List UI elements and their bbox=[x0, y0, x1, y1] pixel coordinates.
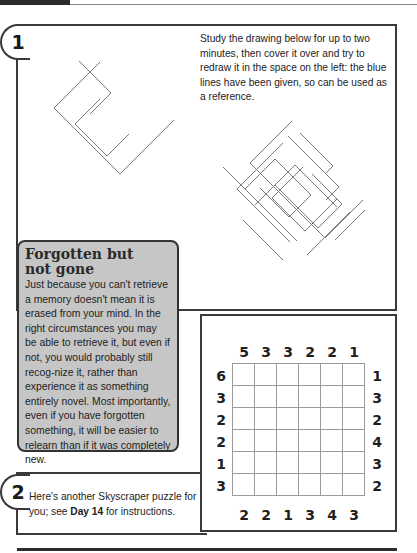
exercise-1-instructions: Study the drawing below for up to two mi… bbox=[200, 32, 390, 105]
grid-row bbox=[233, 474, 365, 496]
clue-top: 2 bbox=[299, 344, 321, 360]
clue-top: 3 bbox=[255, 344, 277, 360]
grid-cell[interactable] bbox=[277, 452, 299, 474]
grid-cell[interactable] bbox=[277, 386, 299, 408]
grid-cell[interactable] bbox=[299, 430, 321, 452]
grid-row bbox=[233, 386, 365, 408]
clue-right: 4 bbox=[366, 431, 388, 453]
left-clues: 6 3 2 2 1 3 bbox=[210, 365, 232, 497]
clue-top: 5 bbox=[233, 344, 255, 360]
grid-cell[interactable] bbox=[233, 364, 255, 386]
grid-cell[interactable] bbox=[299, 474, 321, 496]
clue-right: 1 bbox=[366, 365, 388, 387]
clue-left: 2 bbox=[210, 431, 232, 453]
clue-top: 1 bbox=[343, 344, 365, 360]
footer-rule bbox=[17, 548, 397, 551]
grid-cell[interactable] bbox=[299, 386, 321, 408]
grid-cell[interactable] bbox=[343, 452, 365, 474]
grid-cell[interactable] bbox=[255, 430, 277, 452]
instructions-text-end: for instructions. bbox=[103, 506, 175, 517]
exercise-2-bottom-rule bbox=[17, 533, 207, 535]
tip-callout: Forgotten but not gone Just because you … bbox=[17, 240, 179, 452]
clue-right: 3 bbox=[366, 453, 388, 475]
study-drawing bbox=[215, 115, 390, 265]
clue-bottom: 4 bbox=[321, 507, 343, 523]
grid-cell[interactable] bbox=[233, 386, 255, 408]
grid-cell[interactable] bbox=[299, 408, 321, 430]
exercise-number: 2 bbox=[11, 481, 24, 503]
clue-top: 2 bbox=[321, 344, 343, 360]
right-clues: 1 3 2 4 3 2 bbox=[366, 365, 388, 497]
grid-cell[interactable] bbox=[255, 364, 277, 386]
grid-cell[interactable] bbox=[343, 430, 365, 452]
exercise-2-number-badge: 2 bbox=[0, 474, 30, 510]
clue-bottom: 3 bbox=[299, 507, 321, 523]
grid-cell[interactable] bbox=[321, 474, 343, 496]
grid-row bbox=[233, 430, 365, 452]
grid-cell[interactable] bbox=[299, 364, 321, 386]
grid-cell[interactable] bbox=[343, 386, 365, 408]
grid-cell[interactable] bbox=[233, 430, 255, 452]
clue-left: 3 bbox=[210, 387, 232, 409]
tip-title: Forgotten but not gone bbox=[25, 247, 171, 277]
tip-title-line-1: Forgotten but bbox=[25, 246, 133, 262]
grid-cell[interactable] bbox=[343, 408, 365, 430]
grid-cell[interactable] bbox=[321, 386, 343, 408]
grid-cell[interactable] bbox=[321, 452, 343, 474]
grid-cell[interactable] bbox=[299, 452, 321, 474]
clue-left: 3 bbox=[210, 475, 232, 497]
bottom-clues: 2 2 1 3 4 3 bbox=[233, 507, 365, 523]
clue-bottom: 1 bbox=[277, 507, 299, 523]
clue-bottom: 2 bbox=[233, 507, 255, 523]
grid-cell[interactable] bbox=[233, 452, 255, 474]
grid-cell[interactable] bbox=[321, 408, 343, 430]
grid-cell[interactable] bbox=[277, 430, 299, 452]
grid-row bbox=[233, 452, 365, 474]
skyscraper-grid[interactable] bbox=[232, 363, 365, 496]
day-reference: Day 14 bbox=[70, 506, 103, 517]
tip-title-line-2: not gone bbox=[25, 261, 94, 277]
grid-row bbox=[233, 364, 365, 386]
clue-right: 2 bbox=[366, 475, 388, 497]
clue-right: 2 bbox=[366, 409, 388, 431]
grid-cell[interactable] bbox=[277, 474, 299, 496]
grid-cell[interactable] bbox=[277, 408, 299, 430]
reference-drawing-area[interactable] bbox=[17, 26, 197, 238]
clue-top: 3 bbox=[277, 344, 299, 360]
clue-left: 2 bbox=[210, 409, 232, 431]
clue-bottom: 3 bbox=[343, 507, 365, 523]
exercise-2-instructions: Here's another Skyscraper puzzle for you… bbox=[29, 490, 199, 519]
clue-left: 6 bbox=[210, 365, 232, 387]
grid-cell[interactable] bbox=[255, 408, 277, 430]
grid-cell[interactable] bbox=[321, 430, 343, 452]
clue-bottom: 2 bbox=[255, 507, 277, 523]
tip-body: Just because you can't retrieve a memory… bbox=[25, 278, 171, 468]
header-rule bbox=[70, 4, 417, 5]
grid-cell[interactable] bbox=[255, 386, 277, 408]
top-clues: 5 3 3 2 2 1 bbox=[233, 344, 365, 360]
header-dark-band bbox=[0, 0, 70, 5]
grid-cell[interactable] bbox=[255, 474, 277, 496]
grid-row bbox=[233, 408, 365, 430]
grid-cell[interactable] bbox=[343, 364, 365, 386]
grid-cell[interactable] bbox=[255, 452, 277, 474]
grid-cell[interactable] bbox=[277, 364, 299, 386]
exercise-2-top-rule bbox=[17, 472, 202, 474]
grid-cell[interactable] bbox=[343, 474, 365, 496]
reference-lines-icon bbox=[17, 26, 197, 238]
clue-left: 1 bbox=[210, 453, 232, 475]
study-drawing-lines-icon bbox=[215, 115, 390, 265]
clue-right: 3 bbox=[366, 387, 388, 409]
grid-cell[interactable] bbox=[321, 364, 343, 386]
grid-cell[interactable] bbox=[233, 474, 255, 496]
grid-cell[interactable] bbox=[233, 408, 255, 430]
